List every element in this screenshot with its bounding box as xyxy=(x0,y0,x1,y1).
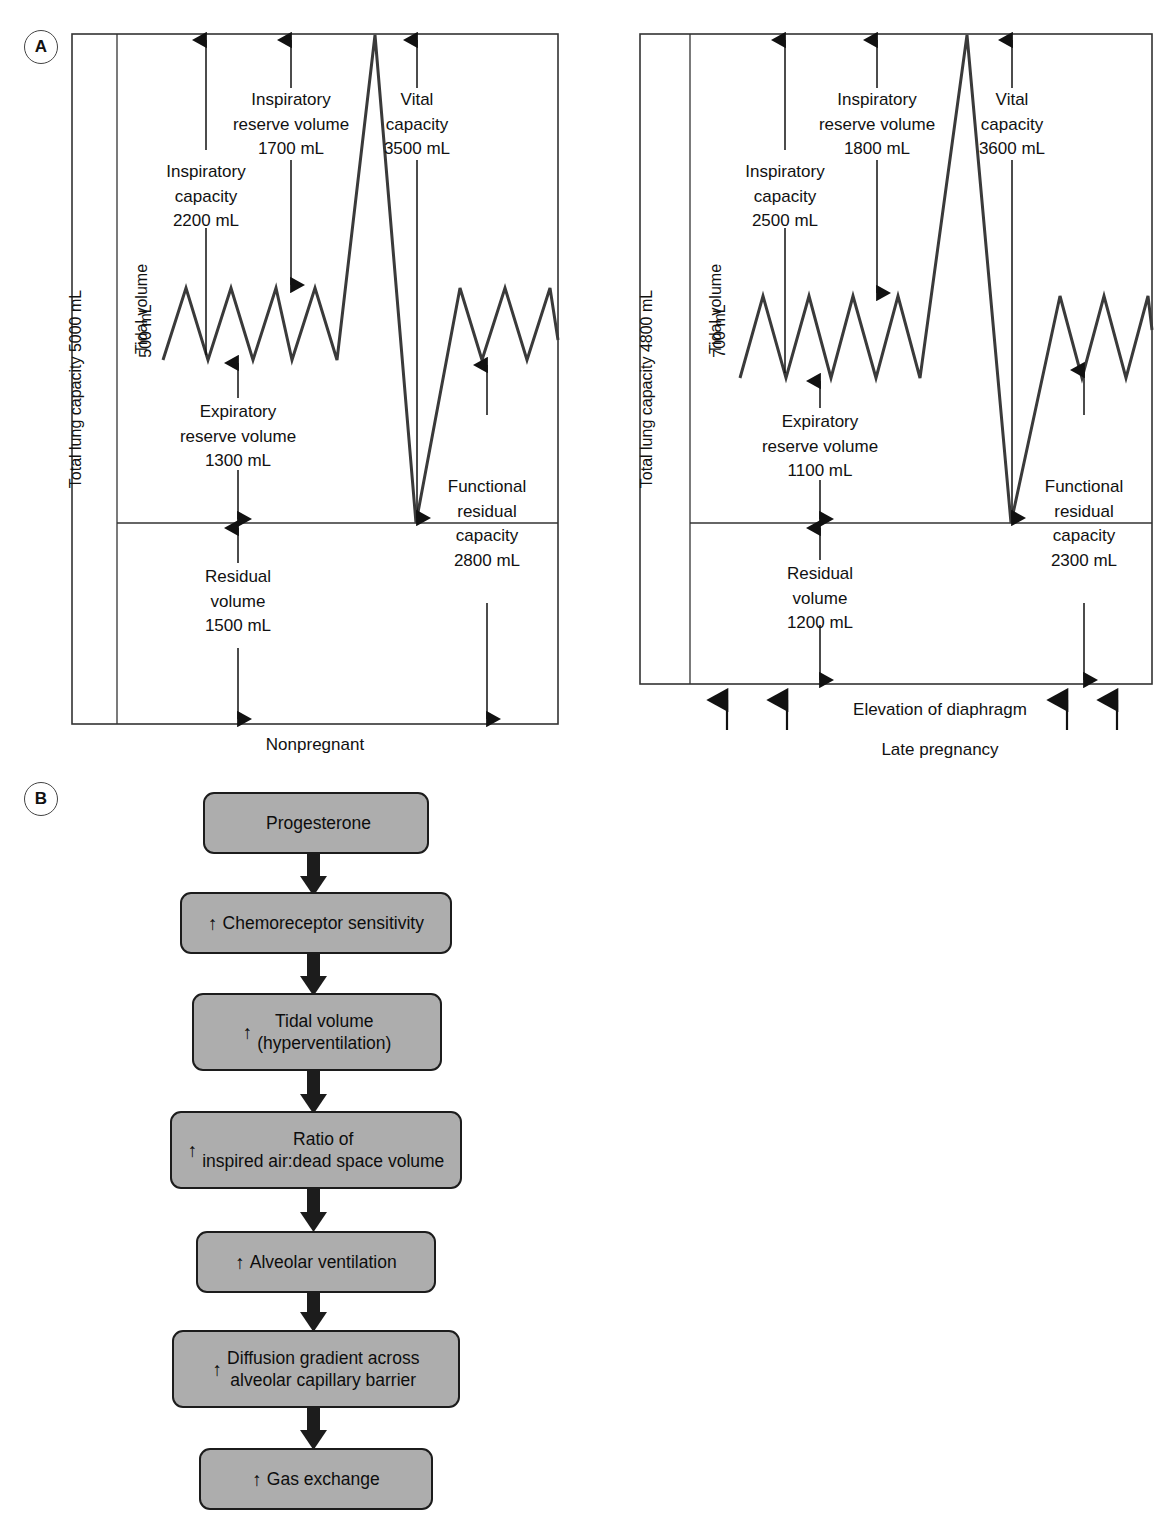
up-arrow-icon-3: ↑ xyxy=(188,1141,198,1160)
flow-step-label-2-line2: (hyperventilation) xyxy=(257,1033,391,1053)
up-arrow-icon-5: ↑ xyxy=(213,1360,223,1379)
irv-line1-r: Inspiratory xyxy=(837,90,916,109)
flow-step-label-4: Alveolar ventilation xyxy=(250,1251,397,1273)
frc-line1: Functional xyxy=(448,477,526,496)
irv-line2-r: reserve volume xyxy=(819,115,935,134)
vc-line3-r: 3600 mL xyxy=(979,139,1045,158)
rv-line3-r: 1200 mL xyxy=(787,613,853,632)
irv-line1: Inspiratory xyxy=(251,90,330,109)
label-expiratory-reserve-volume-nonpregnant: Expiratory reserve volume 1300 mL xyxy=(163,400,313,474)
rv-line1-r: Residual xyxy=(787,564,853,583)
flow-arrow-2 xyxy=(300,952,327,996)
frc-line3-r: capacity xyxy=(1053,526,1115,545)
rv-line2: volume xyxy=(211,592,266,611)
flow-step-label-2: Tidal volume (hyperventilation) xyxy=(257,1010,391,1055)
erv-line1: Expiratory xyxy=(200,402,277,421)
flow-step-label-2-line1: Tidal volume xyxy=(275,1011,374,1031)
label-residual-volume-nonpregnant: Residual volume 1500 mL xyxy=(178,565,298,639)
up-arrow-icon-1: ↑ xyxy=(208,914,218,933)
flow-step-label-5-line1: Diffusion gradient across xyxy=(227,1348,419,1368)
irv-line2: reserve volume xyxy=(233,115,349,134)
label-inspiratory-capacity-nonpregnant: Inspiratory capacity 2200 mL xyxy=(136,160,276,234)
frc-line4-r: 2300 mL xyxy=(1051,551,1117,570)
label-elevation-of-diaphragm: Elevation of diaphragm xyxy=(830,700,1050,720)
erv-line2-r: reserve volume xyxy=(762,437,878,456)
label-functional-residual-capacity-nonpregnant: Functional residual capacity 2800 mL xyxy=(427,475,547,574)
flow-step-gas-exchange[interactable]: ↑ Gas exchange xyxy=(199,1448,433,1510)
flow-arrow-3 xyxy=(300,1070,327,1114)
flow-step-label-3: Ratio of inspired air:dead space volume xyxy=(202,1128,444,1173)
flow-step-ratio-inspired-air-dead-space[interactable]: ↑ Ratio of inspired air:dead space volum… xyxy=(170,1111,462,1189)
ic-line1: Inspiratory xyxy=(166,162,245,181)
vc-line1-r: Vital xyxy=(996,90,1029,109)
caption-nonpregnant: Nonpregnant xyxy=(215,735,415,755)
vc-line3: 3500 mL xyxy=(384,139,450,158)
flow-step-diffusion-gradient[interactable]: ↑ Diffusion gradient across alveolar cap… xyxy=(172,1330,460,1408)
flow-step-label-6: Gas exchange xyxy=(267,1468,380,1490)
flow-step-label-5-line2: alveolar capillary barrier xyxy=(230,1370,416,1390)
frc-line4: 2800 mL xyxy=(454,551,520,570)
vc-line2: capacity xyxy=(386,115,448,134)
flow-step-label-0: Progesterone xyxy=(266,812,371,834)
label-vital-capacity-late-pregnancy: Vital capacity 3600 mL xyxy=(967,88,1057,162)
vc-line1: Vital xyxy=(401,90,434,109)
up-arrow-icon-2: ↑ xyxy=(243,1023,253,1042)
flow-step-label-3-line1: Ratio of xyxy=(293,1129,353,1149)
frc-line2: residual xyxy=(457,502,517,521)
caption-late-pregnancy: Late pregnancy xyxy=(840,740,1040,760)
flow-step-tidal-volume[interactable]: ↑ Tidal volume (hyperventilation) xyxy=(192,993,442,1071)
flow-arrow-6 xyxy=(300,1406,327,1450)
label-inspiratory-reserve-volume-late-pregnancy: Inspiratory reserve volume 1800 mL xyxy=(802,88,952,162)
erv-line3: 1300 mL xyxy=(205,451,271,470)
ic-line3-r: 2500 mL xyxy=(752,211,818,230)
flow-step-alveolar-ventilation[interactable]: ↑ Alveolar ventilation xyxy=(196,1231,436,1293)
label-inspiratory-reserve-volume-nonpregnant: Inspiratory reserve volume 1700 mL xyxy=(216,88,366,162)
frc-line1-r: Functional xyxy=(1045,477,1123,496)
label-expiratory-reserve-volume-late-pregnancy: Expiratory reserve volume 1100 mL xyxy=(745,410,895,484)
vc-line2-r: capacity xyxy=(981,115,1043,134)
rv-line1: Residual xyxy=(205,567,271,586)
flow-step-label-5: Diffusion gradient across alveolar capil… xyxy=(227,1347,419,1392)
frc-line3: capacity xyxy=(456,526,518,545)
ic-line3: 2200 mL xyxy=(173,211,239,230)
erv-line3-r: 1100 mL xyxy=(788,461,853,480)
label-tidal-volume-nonpregnant-line2: 500 mL xyxy=(137,271,155,391)
flow-step-progesterone[interactable]: Progesterone xyxy=(203,792,429,854)
label-total-lung-capacity-nonpregnant: Total lung capacity 5000 mL xyxy=(67,239,85,539)
label-tidal-volume-late-pregnancy-line2: 700 mL xyxy=(711,271,729,391)
flow-step-label-3-line2: inspired air:dead space volume xyxy=(202,1151,444,1171)
label-total-lung-capacity-late-pregnancy: Total lung capacity 4800 mL xyxy=(638,239,656,539)
flow-arrow-4 xyxy=(300,1188,327,1232)
flow-step-label-1: Chemoreceptor sensitivity xyxy=(223,912,424,934)
ic-line1-r: Inspiratory xyxy=(745,162,824,181)
up-arrow-icon-6: ↑ xyxy=(252,1470,262,1489)
flow-arrow-1 xyxy=(300,852,327,896)
label-functional-residual-capacity-late-pregnancy: Functional residual capacity 2300 mL xyxy=(1024,475,1144,574)
flow-arrow-5 xyxy=(300,1288,327,1332)
rv-line2-r: volume xyxy=(793,589,848,608)
up-arrow-icon-4: ↑ xyxy=(235,1253,245,1272)
flow-step-chemoreceptor-sensitivity[interactable]: ↑ Chemoreceptor sensitivity xyxy=(180,892,452,954)
ic-line2: capacity xyxy=(175,187,237,206)
ic-line2-r: capacity xyxy=(754,187,816,206)
label-inspiratory-capacity-late-pregnancy: Inspiratory capacity 2500 mL xyxy=(715,160,855,234)
rv-line3: 1500 mL xyxy=(205,616,271,635)
erv-line2: reserve volume xyxy=(180,427,296,446)
erv-line1-r: Expiratory xyxy=(782,412,859,431)
irv-line3: 1700 mL xyxy=(258,139,324,158)
label-vital-capacity-nonpregnant: Vital capacity 3500 mL xyxy=(372,88,462,162)
label-residual-volume-late-pregnancy: Residual volume 1200 mL xyxy=(760,562,880,636)
irv-line3-r: 1800 mL xyxy=(844,139,910,158)
frc-line2-r: residual xyxy=(1054,502,1114,521)
